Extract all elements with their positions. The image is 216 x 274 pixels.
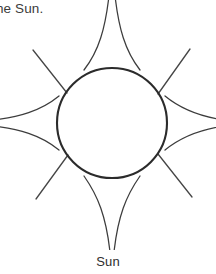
northeast-ray (158, 49, 190, 94)
page-root: he Sun. (0, 0, 216, 274)
sun-disc-circle (57, 68, 167, 178)
figure-caption: Sun (0, 254, 216, 270)
southwest-ray (36, 155, 68, 199)
sun-figure (0, 0, 216, 250)
northwest-ray (33, 50, 67, 93)
south-ray (84, 176, 140, 250)
north-ray (84, 0, 140, 70)
sun-illustration-svg (0, 0, 216, 250)
west-ray (0, 96, 59, 150)
southeast-ray (158, 154, 192, 197)
east-ray (165, 96, 216, 150)
